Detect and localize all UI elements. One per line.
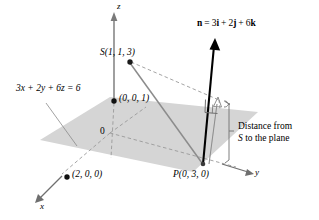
point-P-label: P(0, 3, 0)	[173, 170, 209, 180]
unit-vector-j-icon: j	[233, 18, 236, 28]
y-axis-arrowhead	[245, 169, 254, 176]
axis-label-y: y	[255, 168, 259, 177]
z-intercept-label: (0, 0, 1)	[119, 94, 149, 104]
point-S-dot	[127, 59, 132, 64]
axis-label-z: z	[117, 2, 121, 11]
point-x-intercept-dot	[64, 174, 69, 179]
normal-vector-plus-2: +	[238, 18, 243, 28]
normal-vector-equals: =	[204, 18, 209, 28]
normal-vector-plus-1: +	[221, 18, 226, 28]
normal-vector-name: n	[197, 18, 202, 28]
distance-annotation-line2: S to the plane	[238, 134, 289, 144]
right-angle-marker-inner	[212, 105, 213, 114]
plane-equation-label: 3x + 2y + 6z = 6	[16, 84, 81, 94]
axis-label-x: x	[40, 202, 44, 211]
unit-vector-k-icon: k	[250, 18, 255, 28]
x-axis	[40, 176, 62, 198]
x-intercept-label: (2, 0, 0)	[72, 170, 102, 180]
unit-vector-i-icon: i	[216, 18, 219, 28]
point-P-dot	[201, 162, 206, 167]
gray-parallel-arrowhead	[214, 97, 222, 107]
origin-label: 0	[100, 127, 105, 137]
point-S-label: S(1, 1, 3)	[100, 48, 135, 58]
distance-annotation-line1: Distance from	[238, 122, 292, 132]
plane-surface	[40, 97, 258, 172]
normal-vector-arrowhead	[210, 38, 221, 51]
z-axis-arrowhead	[111, 12, 118, 21]
geometry-figure: z y x 0 3x + 2y + 6z = 6 S(1, 1, 3) P(0,…	[0, 0, 319, 220]
normal-vector-label: n=3i+2j+6k	[197, 19, 256, 29]
distance-annotation-rest: to the plane	[243, 133, 290, 143]
diagram-canvas	[0, 0, 319, 220]
y-axis	[222, 164, 248, 172]
point-z-intercept-dot	[111, 98, 116, 103]
